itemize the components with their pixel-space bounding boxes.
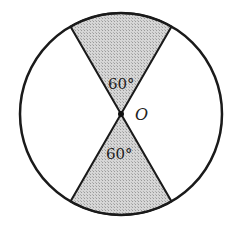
bottom-angle-label: 60° xyxy=(106,145,133,163)
circle-sector-diagram: 60° 60° O xyxy=(0,0,238,226)
top-shaded-sector xyxy=(71,13,172,114)
bottom-shaded-sector xyxy=(71,114,172,215)
top-angle-label: 60° xyxy=(108,75,135,93)
center-point xyxy=(118,111,124,117)
center-label: O xyxy=(135,105,148,124)
